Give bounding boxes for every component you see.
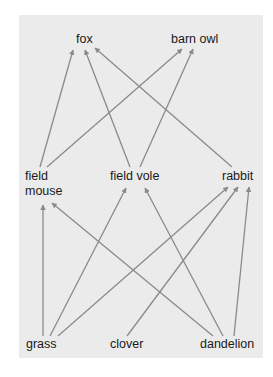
arrow-field-vole-to-barn-owl (140, 49, 193, 167)
arrow-dandelion-to-field-vole (145, 188, 223, 336)
arrow-field-vole-to-fox (85, 50, 130, 167)
node-field-mouse-line2: mouse (25, 184, 63, 199)
node-field-mouse-line1: field (25, 169, 48, 184)
node-dandelion: dandelion (200, 337, 254, 352)
arrow-dandelion-to-field-mouse (52, 203, 213, 336)
node-field-vole: field vole (110, 169, 159, 184)
node-rabbit: rabbit (222, 169, 253, 184)
arrow-dandelion-to-rabbit (234, 187, 249, 336)
node-clover: clover (110, 337, 143, 352)
node-barn-owl: barn owl (171, 32, 218, 47)
node-fox: fox (76, 32, 93, 47)
node-grass: grass (26, 337, 57, 352)
arrow-field-mouse-to-barn-owl (47, 49, 182, 167)
